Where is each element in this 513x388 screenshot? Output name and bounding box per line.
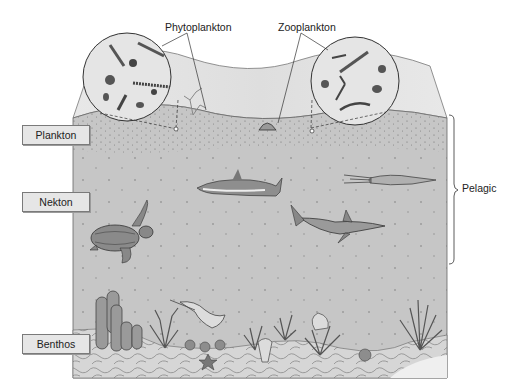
- phytoplankton-magnifier: [83, 33, 171, 121]
- pelagic-bracket: [449, 115, 458, 264]
- zooplankton-label: Zooplankton: [278, 21, 336, 33]
- benthos-zone-label: Benthos: [22, 334, 90, 354]
- nekton-zone-label: Nekton: [22, 192, 90, 212]
- plankton-zone-label: Plankton: [22, 125, 90, 145]
- phytoplankton-label: Phytoplankton: [165, 21, 232, 33]
- pelagic-label: Pelagic: [462, 182, 496, 194]
